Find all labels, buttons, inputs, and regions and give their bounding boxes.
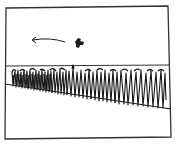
motion-arrow-icon: [32, 37, 65, 43]
crop-row: [12, 65, 166, 108]
bird-icon: [75, 38, 84, 48]
field-illustration: [0, 0, 175, 144]
horizon-line: [5, 65, 170, 66]
